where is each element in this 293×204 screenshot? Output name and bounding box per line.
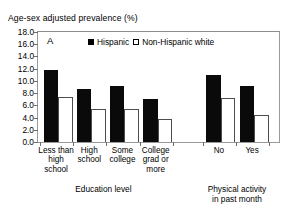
plot-inner: A Hispanic Non-Hispanic white 0.02.04.06… [38,32,279,142]
y-axis-tick [34,142,38,143]
x-axis-category-label: High school [71,146,108,165]
bar-non-hispanic-white [58,97,73,142]
y-axis-tick-label: 8.0 [22,88,34,98]
plot-area: A Hispanic Non-Hispanic white 0.02.04.06… [37,31,280,143]
y-axis-tick-label: 2.0 [22,125,34,135]
y-axis-tick-label: 10.0 [18,76,34,86]
y-axis-tick-label: 16.0 [18,39,34,49]
bar-non-hispanic-white [221,98,236,142]
axis-title-education: Education level [37,185,170,195]
y-axis-tick [34,118,38,119]
bar-hispanic [77,89,92,142]
y-axis-tick [34,56,38,57]
bar-non-hispanic-white [254,115,269,143]
x-axis-category-label: College grad or more [137,146,174,174]
y-axis-tick [34,93,38,94]
legend-label-hispanic: Hispanic [97,37,129,47]
bar-non-hispanic-white [158,119,173,142]
y-axis-tick-label: 12.0 [18,64,34,74]
bar-non-hispanic-white [91,109,106,142]
bar-hispanic [240,86,255,142]
y-axis-tick-label: 4.0 [22,113,34,123]
x-axis-category-label: Some college [104,146,141,165]
panel-label: A [47,35,53,46]
y-axis-tick [34,130,38,131]
bar-non-hispanic-white [124,109,139,142]
x-axis-category-label: Less than high school [38,146,75,174]
axis-title-activity: Physical activity in past month [190,185,284,204]
chart-figure: Age-sex adjusted prevalence (%) A Hispan… [0,0,293,204]
bar-hispanic [143,99,158,142]
y-axis-tick-label: 14.0 [18,51,34,61]
y-axis-tick [34,105,38,106]
x-axis-category-label: No [200,146,237,155]
chart-legend: Hispanic Non-Hispanic white [88,37,214,47]
y-axis-tick-label: 6.0 [22,100,34,110]
legend-item-non-hispanic-white: Non-Hispanic white [133,37,214,47]
legend-label-non-hispanic-white: Non-Hispanic white [142,37,214,47]
y-axis-tick [34,69,38,70]
y-axis-tick [34,81,38,82]
filled-square-icon [88,39,94,45]
y-axis-tick [34,32,38,33]
bar-hispanic [206,75,221,142]
y-axis-tick [34,44,38,45]
bar-hispanic [44,70,59,142]
open-square-icon [133,39,139,45]
x-axis-category-label: Yes [234,146,271,155]
bar-hispanic [110,86,125,142]
legend-item-hispanic: Hispanic [88,37,129,47]
y-axis-tick-label: 18.0 [18,27,34,37]
y-axis-title: Age-sex adjusted prevalence (%) [8,13,138,23]
y-axis-tick-label: 0.0 [22,137,34,147]
